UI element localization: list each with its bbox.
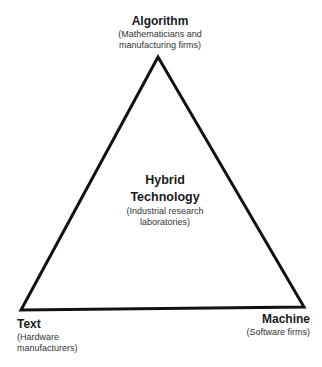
vertex-algorithm-subtitle-2: manufacturing firms) [90, 40, 230, 51]
vertex-machine-title: Machine [220, 312, 310, 327]
vertex-algorithm-title: Algorithm [90, 14, 230, 29]
vertex-algorithm: Algorithm (Mathematicians and manufactur… [90, 14, 230, 52]
center-title-2: Technology [100, 189, 230, 206]
vertex-algorithm-subtitle-1: (Mathematicians and [90, 29, 230, 40]
center-title-1: Hybrid [100, 172, 230, 189]
vertex-text-subtitle-1: (Hardware [17, 332, 137, 343]
vertex-text-subtitle-2: manufacturers) [17, 343, 137, 354]
vertex-machine-subtitle-1: (Software firms) [220, 327, 310, 338]
vertex-machine: Machine (Software firms) [220, 312, 310, 338]
vertex-text-title: Text [17, 317, 137, 332]
center-hybrid-technology: Hybrid Technology (Industrial research l… [100, 172, 230, 228]
center-subtitle-2: laboratories) [100, 217, 230, 228]
vertex-text: Text (Hardware manufacturers) [17, 317, 137, 355]
center-subtitle-1: (Industrial research [100, 206, 230, 217]
